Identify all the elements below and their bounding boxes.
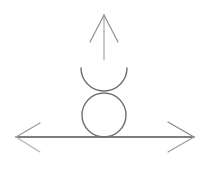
right-arrowhead-upper [168, 122, 194, 137]
sketch-diagram [0, 0, 209, 170]
up-arrowhead-right [104, 15, 118, 42]
up-arrowhead-left [90, 15, 104, 42]
left-arrowhead-upper [16, 123, 40, 137]
upper-cup-arc [81, 68, 127, 91]
right-arrowhead-lower [168, 137, 194, 152]
up-arrow [90, 15, 118, 60]
lower-circle [82, 93, 126, 137]
diagram-canvas: hand-drawn pencil sketch [0, 0, 209, 170]
left-arrowhead-lower [16, 137, 40, 152]
